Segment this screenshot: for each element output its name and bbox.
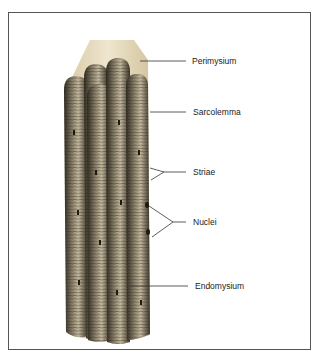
muscle-fascicle-illustration <box>0 0 317 356</box>
label-nuclei: Nuclei <box>193 217 217 227</box>
label-perimysium: Perimysium <box>192 56 236 66</box>
nuclei-leader-line-1 <box>149 206 186 222</box>
label-sarcolemma: Sarcolemma <box>193 107 241 117</box>
label-striae: Striae <box>193 167 215 177</box>
label-endomysium: Endomysium <box>195 281 244 291</box>
striae-leader-line-1 <box>150 168 186 172</box>
nuclei-leader-line-2 <box>152 222 173 237</box>
muscle-fibers <box>64 58 150 344</box>
striae-leader-line-2 <box>151 172 164 180</box>
